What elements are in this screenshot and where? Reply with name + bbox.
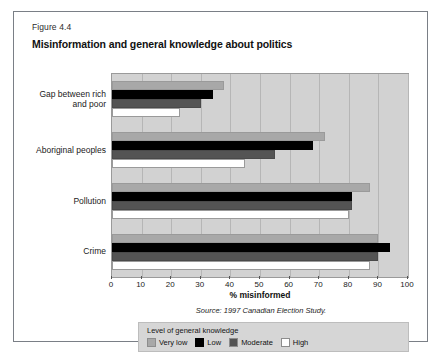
x-tick-label: 20: [166, 280, 175, 289]
x-tick-label: 0: [109, 280, 113, 289]
legend-label: High: [293, 338, 308, 347]
x-tick-label: 30: [195, 280, 204, 289]
legend-swatch-moderate-icon: [229, 338, 238, 347]
bar-moderate: [112, 201, 352, 210]
legend-item-moderate[interactable]: Moderate: [229, 338, 273, 347]
x-tick-mark: [318, 276, 319, 279]
legend-swatch-high-icon: [281, 338, 290, 347]
category-label: Aboriginal peoples: [0, 145, 106, 156]
legend-items: Very lowLowModerateHigh: [147, 338, 308, 347]
x-tick-mark: [229, 276, 230, 279]
x-tick-mark: [200, 276, 201, 279]
x-tick-mark: [289, 276, 290, 279]
figure-frame: Figure 4.4 Misinformation and general kn…: [13, 11, 428, 342]
legend-swatch-very-low-icon: [147, 338, 156, 347]
x-tick-mark: [170, 276, 171, 279]
bar-moderate: [112, 150, 275, 159]
legend-swatch-low-icon: [195, 338, 204, 347]
legend-item-low[interactable]: Low: [195, 338, 221, 347]
bar-group: Crime: [112, 226, 408, 277]
x-tick-mark: [141, 276, 142, 279]
bar-very-low: [112, 183, 370, 192]
figure-number: Figure 4.4: [32, 22, 71, 32]
chart-legend: Level of general knowledge Very lowLowMo…: [138, 322, 409, 352]
bar-low: [112, 192, 352, 201]
legend-title: Level of general knowledge: [147, 326, 238, 335]
legend-label: Low: [207, 338, 221, 347]
x-tick-label: 90: [373, 280, 382, 289]
bar-group: Pollution: [112, 176, 408, 227]
category-label: Gap between rich and poor: [0, 89, 106, 110]
legend-label: Moderate: [241, 338, 273, 347]
bar-low: [112, 90, 213, 99]
legend-item-high[interactable]: High: [281, 338, 308, 347]
bar-group: Gap between rich and poor: [112, 74, 408, 125]
bar-high: [112, 261, 370, 270]
bar-moderate: [112, 99, 201, 108]
source-note: Source: 1997 Canadian Election Study.: [111, 306, 411, 315]
gridline: [408, 74, 409, 277]
legend-label: Very low: [159, 338, 187, 347]
bar-high: [112, 108, 180, 117]
bar-high: [112, 210, 349, 219]
x-tick-mark: [377, 276, 378, 279]
x-tick-label: 80: [343, 280, 352, 289]
x-tick-mark: [111, 276, 112, 279]
figure-title: Misinformation and general knowledge abo…: [32, 38, 292, 50]
x-tick-label: 70: [314, 280, 323, 289]
x-tick-label: 40: [225, 280, 234, 289]
x-axis-title: % misinformed: [111, 290, 409, 300]
x-tick-mark: [407, 276, 408, 279]
chart-plot-area: Gap between rich and poorAboriginal peop…: [111, 73, 409, 278]
x-tick-label: 50: [255, 280, 264, 289]
x-tick-mark: [259, 276, 260, 279]
category-label: Crime: [0, 246, 106, 257]
x-tick-label: 60: [284, 280, 293, 289]
bar-very-low: [112, 132, 325, 141]
x-tick-label: 10: [136, 280, 145, 289]
bar-high: [112, 159, 245, 168]
x-tick-mark: [348, 276, 349, 279]
bar-low: [112, 243, 390, 252]
bar-group: Aboriginal peoples: [112, 125, 408, 176]
legend-item-very-low[interactable]: Very low: [147, 338, 187, 347]
bar-moderate: [112, 252, 378, 261]
bar-very-low: [112, 81, 224, 90]
x-tick-label: 100: [400, 280, 413, 289]
bar-very-low: [112, 234, 378, 243]
category-label: Pollution: [0, 196, 106, 207]
bar-low: [112, 141, 313, 150]
